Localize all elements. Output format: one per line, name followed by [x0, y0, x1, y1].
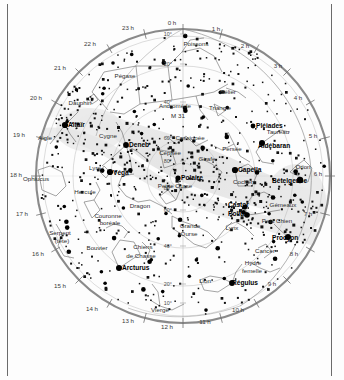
bright-star-label: Bételgeuse — [272, 177, 308, 185]
hour-label: 13 h — [122, 317, 135, 324]
hour-label: 6 h — [314, 170, 323, 177]
constellation-label: Dauphin — [68, 99, 92, 106]
hour-label: 16 h — [32, 250, 45, 257]
constellation-label: Cassiopée — [175, 134, 205, 141]
constellation-label: Ophiucus — [23, 175, 49, 182]
constellation-label: Ourse — [181, 230, 198, 237]
hour-label: 22 h — [84, 40, 97, 47]
hour-label: 9 h — [268, 280, 277, 287]
hour-label: 1 h — [212, 25, 221, 32]
constellation-label: femelle — [242, 267, 263, 274]
bright-star-marker — [251, 124, 256, 129]
constellation-label: Triangle — [209, 104, 232, 111]
constellation-label: Gémeaux — [270, 201, 298, 208]
constellation-label: Persée — [222, 145, 242, 152]
hour-label: 21 h — [54, 64, 67, 71]
declination-label: 60° — [164, 135, 172, 141]
constellation-label: Dragon — [130, 202, 151, 209]
hour-label: 4 h — [294, 94, 303, 101]
hour-label: 5 h — [309, 132, 318, 139]
constellation-label: Taureau — [267, 128, 290, 135]
constellation-label: boréale — [100, 219, 121, 226]
bright-star-label: Polaire — [181, 174, 203, 181]
constellation-label: Vierge — [151, 306, 169, 313]
hour-label: 3 h — [274, 62, 283, 69]
bright-star-label: Régulus — [232, 279, 258, 287]
hour-label: 12 h — [161, 323, 174, 330]
hour-label: 23 h — [122, 24, 135, 31]
ecliptic-line-3 — [128, 306, 240, 317]
constellation-label: Lion — [199, 277, 211, 284]
hour-label: 11 h — [199, 318, 211, 325]
hour-label: 7 h — [304, 210, 313, 217]
hour-label: 19 h — [13, 131, 26, 138]
declination-label: 40° — [164, 243, 172, 249]
constellation-label: Bouvier — [87, 244, 108, 251]
constellation-label: Petit Chien — [262, 217, 293, 224]
bright-star-label: Pléiades — [256, 122, 283, 129]
constellation-label: Lynx — [226, 224, 240, 231]
constellation-label: Pégase — [115, 72, 137, 79]
constellation-label: M 31 — [171, 112, 185, 119]
constellation-label: Bélier — [220, 88, 236, 95]
bright-star-label: Aldébaran — [258, 142, 290, 149]
sky-map-svg: 0 h1 h2 h3 h4 h5 h6 h7 h8 h9 h10 h11 h12… — [0, 0, 344, 380]
hour-label: 0 h — [168, 19, 177, 26]
bright-star-marker — [175, 175, 180, 180]
constellation-label: Lyre — [89, 164, 101, 171]
constellation-label: Hercule — [74, 188, 96, 195]
constellation-label: Cocher — [233, 178, 253, 185]
constellation-label: (tête) — [55, 237, 69, 244]
constellation-label: Serpent — [49, 229, 71, 236]
constellation-label: Cygne — [99, 132, 117, 139]
declination-label: 80° — [164, 158, 172, 164]
bright-star-label: Capella — [238, 166, 262, 174]
constellation-label: de Chasse — [126, 252, 156, 259]
declination-label: 20° — [164, 281, 172, 287]
constellation-label: Petite Ourse — [158, 182, 193, 189]
constellation-label: Grande — [180, 222, 201, 229]
hour-label: 20 h — [30, 94, 43, 101]
hour-label: 14 h — [86, 305, 99, 312]
constellation-label: Andromède — [159, 102, 192, 109]
bright-star-label: Castor — [228, 201, 249, 208]
bright-star-label: Véga — [113, 169, 129, 177]
star-chart-figure: 0 h1 h2 h3 h4 h5 h6 h7 h8 h9 h10 h11 h12… — [0, 0, 344, 380]
constellation-label: Cancer — [255, 247, 275, 254]
bright-star-label: Altaïr — [68, 121, 85, 128]
bright-star-label: Pollux — [228, 210, 248, 217]
hour-label: 8 h — [290, 250, 299, 257]
hour-label: 15 h — [54, 282, 67, 289]
constellation-label: Poissons — [183, 40, 208, 47]
constellation-label: Orion — [295, 163, 311, 170]
hour-label: 18 h — [10, 171, 23, 178]
constellation-label: Céphée — [159, 149, 181, 156]
hour-label: 17 h — [16, 210, 29, 217]
bright-star-label: Deneb — [129, 141, 149, 148]
declination-label: 10° — [164, 31, 172, 37]
declination-label: 60° — [164, 207, 172, 213]
constellation-label: Girafe — [199, 155, 216, 162]
bright-star-label: Arcturus — [122, 264, 150, 271]
constellation-label: Couronne — [94, 212, 122, 219]
hour-label: 2 h — [241, 42, 250, 49]
constellation-label: Aigle — [38, 134, 52, 141]
bright-star-label: Procyon — [272, 234, 298, 242]
constellation-label: Chiens — [133, 243, 152, 250]
hour-label: 10 h — [232, 306, 245, 313]
constellation-label: Hydre — [245, 259, 262, 266]
declination-label: 20° — [164, 61, 172, 67]
